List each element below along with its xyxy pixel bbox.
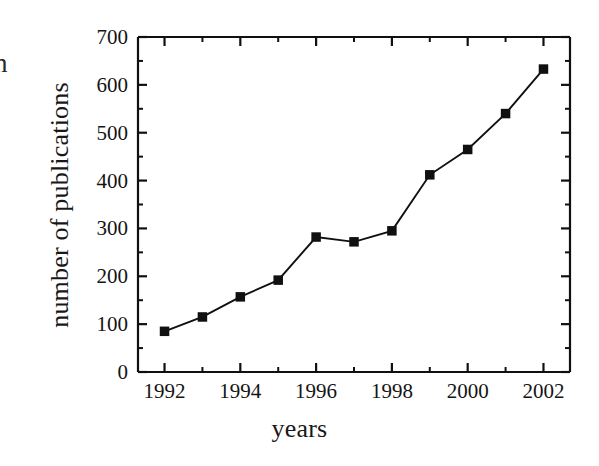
x-tick-label: 2000 [447,379,489,403]
x-tick-label: 1998 [371,379,413,403]
data-point-marker [539,64,549,74]
data-point-marker [273,275,283,285]
data-point-marker [236,292,246,302]
x-tick-label: 2002 [522,379,564,403]
y-tick-label: 600 [97,73,129,97]
x-tick-label: 1992 [144,379,186,403]
y-tick-label: 0 [118,360,129,384]
y-tick-label: 200 [97,264,129,288]
data-point-marker [463,145,473,155]
x-axis-tick-labels: 199219941996199820002002 [144,379,565,403]
series-polyline [165,69,544,331]
plot-area: 0100200300400500600700 19921994199619982… [0,0,599,466]
data-point-marker [387,226,397,236]
x-tick-label: 1996 [295,379,337,403]
y-tick-label: 500 [97,121,129,145]
x-tick-label: 1994 [219,379,262,403]
data-point-marker [311,232,321,242]
y-axis-tick-labels: 0100200300400500600700 [97,25,129,384]
data-series-markers [160,64,548,336]
y-tick-label: 300 [97,216,129,240]
y-tick-label: 400 [97,169,129,193]
data-point-marker [198,312,208,322]
axis-frame [138,37,570,372]
x-axis-ticks [165,37,544,372]
y-tick-label: 100 [97,312,129,336]
data-series-line [165,69,544,331]
publications-line-chart-figure: n number of publications years 010020030… [0,0,599,466]
data-point-marker [349,237,359,247]
y-axis-ticks [138,37,570,372]
data-point-marker [425,170,435,180]
y-tick-label: 700 [97,25,129,49]
data-point-marker [160,327,170,337]
data-point-marker [501,109,511,119]
